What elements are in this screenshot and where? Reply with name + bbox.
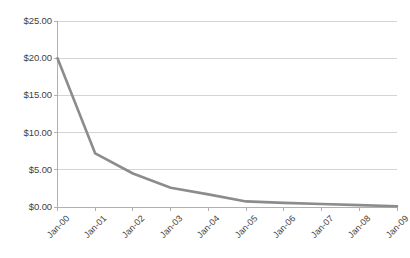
x-axis-tick-label: Jan-00 <box>0 214 71 258</box>
